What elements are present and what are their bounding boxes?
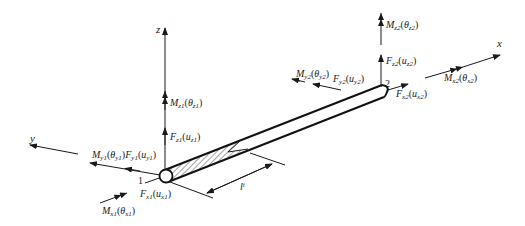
mz1-label: Mz1(θz1)	[169, 97, 202, 110]
x-axis: x Fx2(ux2) Mx2(θx2)	[388, 37, 502, 101]
my1-fy1-label: My1(θy1)Fy1(uy1)	[91, 149, 156, 162]
fz2-label: Fz2(uz2)	[385, 55, 416, 68]
z-axis: z	[155, 23, 165, 176]
mz2-label: Mz2(θz2)	[385, 19, 418, 32]
fy2-label: Fy2(uy2)	[332, 73, 364, 86]
node2-z-loads: Fz2(uz2) Mz2(θz2)	[381, 13, 418, 87]
fx1-label: Fx1(ux1)	[139, 188, 171, 201]
beam-element-diagram: z Mz1(θz1) Fz1(uz1) y My1(θy1)Fy1(uy1) 1…	[0, 0, 525, 226]
node-1-label: 1	[138, 175, 143, 186]
moment-mz1: Mz1(θz1)	[165, 91, 202, 110]
mx2-label: Mx2(θx2)	[443, 72, 477, 85]
beam	[160, 85, 388, 183]
fz1-label: Fz1(uz1)	[169, 131, 200, 144]
mx1-label: Mx1(θx1)	[101, 205, 135, 218]
fx2-label: Fx2(ux2)	[395, 88, 427, 101]
node2-y-loads: My2(θy2) Fy2(uy2)	[292, 68, 364, 90]
length-label: li	[240, 181, 245, 192]
z-axis-label: z	[155, 23, 161, 35]
y-axis-label: y	[29, 132, 35, 144]
node1-y-loads: My1(θy1)Fy1(uy1)	[90, 149, 160, 175]
x-axis-label: x	[496, 37, 502, 49]
node1-x-loads: Fx1(ux1) Mx1(θx1)	[100, 176, 171, 218]
my2-label: My2(θy2)	[295, 68, 329, 81]
node-2-label: 2	[385, 78, 390, 89]
length-dimension: li	[170, 153, 285, 198]
force-fz1: Fz1(uz1)	[165, 128, 200, 145]
y-axis: y	[29, 132, 78, 154]
